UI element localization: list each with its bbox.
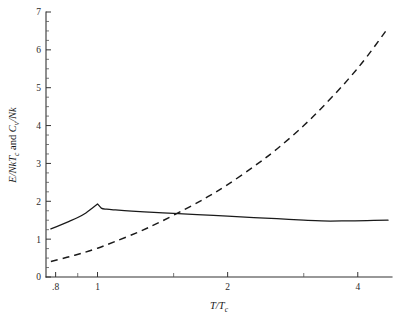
y-axis-tick-labels: 01234567 bbox=[36, 7, 41, 282]
chart-canvas: 01234567 .8124 T/Tc E/NkTc and Cv/Nk bbox=[0, 0, 402, 321]
y-tick-label: 2 bbox=[36, 197, 41, 207]
y-tick-label: 3 bbox=[36, 159, 41, 169]
y-tick-label: 0 bbox=[36, 272, 41, 282]
axes-group bbox=[46, 12, 392, 277]
y-tick-label: 6 bbox=[36, 45, 41, 55]
y-tick-label: 4 bbox=[36, 121, 41, 131]
x-axis-tick-labels: .8124 bbox=[52, 282, 360, 292]
x-axis-title: T/Tc bbox=[210, 300, 229, 314]
y-tick-label: 7 bbox=[36, 7, 41, 17]
data-series-group bbox=[51, 28, 388, 262]
x-axis-ticks bbox=[56, 272, 358, 277]
series-heat-capacity-line bbox=[51, 28, 388, 262]
y-tick-label: 5 bbox=[36, 83, 41, 93]
chart-figure: 01234567 .8124 T/Tc E/NkTc and Cv/Nk bbox=[0, 0, 402, 321]
x-tick-label: 1 bbox=[95, 282, 100, 292]
x-tick-label: 2 bbox=[225, 282, 230, 292]
x-tick-label: .8 bbox=[52, 282, 59, 292]
x-tick-label: 4 bbox=[355, 282, 360, 292]
y-axis-ticks bbox=[46, 12, 51, 277]
series-energy-line bbox=[51, 204, 388, 229]
y-axis-title: E/NkTc and Cv/Nk bbox=[7, 107, 21, 184]
y-tick-label: 1 bbox=[36, 235, 41, 245]
